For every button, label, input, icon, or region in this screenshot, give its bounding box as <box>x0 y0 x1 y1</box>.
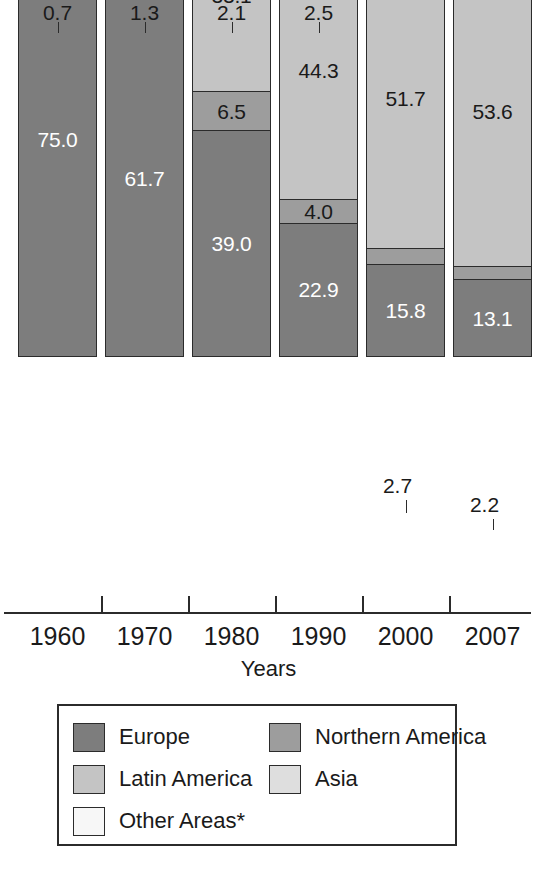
bar-stack-2000[interactable]: 3.426.451.715.8 <box>366 0 445 357</box>
x-tick-label-1970: 1970 <box>105 622 184 651</box>
legend-label-asia: Asia <box>315 768 358 790</box>
segment-value-label: 44.3 <box>298 60 338 81</box>
legend-item-asia[interactable]: Asia <box>269 762 358 796</box>
legend-label-northern-america: Northern America <box>315 726 486 748</box>
segment-value-label: 51.7 <box>385 88 425 109</box>
bar-stack-1980[interactable]: 19.333.16.539.0 <box>192 0 271 357</box>
x-axis-tick <box>449 596 451 613</box>
bar-segment[interactable] <box>454 266 531 280</box>
x-tick-label-1980: 1980 <box>192 622 271 651</box>
segment-callout-label: 2.7 <box>358 475 437 496</box>
segment-callout-leader <box>406 500 408 513</box>
segment-value-label: 13.1 <box>472 308 512 329</box>
x-tick-label-1990: 1990 <box>279 622 358 651</box>
x-axis-tick <box>188 596 190 613</box>
legend-item-europe[interactable]: Europe <box>73 720 190 754</box>
bar-segment[interactable] <box>367 248 444 265</box>
legend-swatch-asia <box>269 765 301 794</box>
segment-value-label: 15.8 <box>385 300 425 321</box>
segment-callout-label: 2.5 <box>279 2 358 23</box>
segment-value-label: 39.0 <box>211 233 251 254</box>
bar-stack-1970[interactable]: 8.919.48.761.7 <box>105 0 184 357</box>
legend-item-northern-america[interactable]: Northern America <box>269 720 486 754</box>
x-axis-tick <box>275 596 277 613</box>
legend-label-latin-america: Latin America <box>119 768 252 790</box>
x-axis-tick <box>362 596 364 613</box>
bar-segment[interactable]: 75.0 <box>19 0 96 356</box>
bar-segment[interactable]: 4.0 <box>280 199 357 223</box>
x-tick-label-2007: 2007 <box>453 622 532 651</box>
bar-group-1970: 8.919.48.761.7 <box>105 0 184 357</box>
legend-label-europe: Europe <box>119 726 190 748</box>
stacked-bar-chart: 5.19.49.875.00.78.919.48.761.71.319.333.… <box>0 0 537 870</box>
segment-callout-label: 2.2 <box>445 494 524 515</box>
x-axis-line <box>4 612 531 614</box>
legend-swatch-latin-america <box>73 765 105 794</box>
bar-segment[interactable]: 53.6 <box>454 0 531 266</box>
segment-value-label: 61.7 <box>124 168 164 189</box>
legend: Europe Northern America Latin America As… <box>57 704 457 846</box>
bar-group-1990: 26.344.34.022.9 <box>279 0 358 357</box>
bar-group-2000: 3.426.451.715.8 <box>366 0 445 357</box>
legend-swatch-other-areas <box>73 807 105 836</box>
segment-callout-leader <box>145 22 147 33</box>
bar-segment[interactable]: 61.7 <box>106 0 183 356</box>
segment-callout-label: 1.3 <box>105 2 184 23</box>
bar-segment[interactable]: 22.9 <box>280 223 357 356</box>
bar-group-1960: 5.19.49.875.0 <box>18 0 97 357</box>
plot-area: 5.19.49.875.00.78.919.48.761.71.319.333.… <box>0 0 537 614</box>
segment-callout-label: 0.7 <box>18 2 97 23</box>
segment-value-label: 4.0 <box>304 201 333 222</box>
legend-grid: Europe Northern America Latin America As… <box>73 718 445 836</box>
bar-stack-2007[interactable]: 4.326.853.613.1 <box>453 0 532 357</box>
x-axis-title: Years <box>0 656 537 682</box>
legend-item-other-areas[interactable]: Other Areas* <box>73 804 245 838</box>
legend-swatch-northern-america <box>269 723 301 752</box>
segment-callout-leader <box>493 519 495 530</box>
segment-value-label: 53.6 <box>472 101 512 122</box>
segment-callout-label: 2.1 <box>192 2 271 23</box>
bar-segment[interactable]: 15.8 <box>367 264 444 356</box>
bar-segment[interactable]: 39.0 <box>193 130 270 356</box>
segment-callout-leader <box>58 22 60 33</box>
segment-callout-leader <box>319 22 321 33</box>
segment-value-label: 6.5 <box>217 101 246 122</box>
bar-group-2007: 4.326.853.613.1 <box>453 0 532 357</box>
segment-callout-leader <box>232 22 234 33</box>
bar-segment[interactable]: 6.5 <box>193 91 270 130</box>
bar-group-1980: 19.333.16.539.0 <box>192 0 271 357</box>
x-tick-label-2000: 2000 <box>366 622 445 651</box>
legend-swatch-europe <box>73 723 105 752</box>
x-tick-label-1960: 1960 <box>18 622 97 651</box>
bar-segment[interactable]: 13.1 <box>454 279 531 356</box>
bar-stack-1990[interactable]: 26.344.34.022.9 <box>279 0 358 357</box>
legend-item-latin-america[interactable]: Latin America <box>73 762 252 796</box>
bar-segment[interactable]: 51.7 <box>367 0 444 248</box>
segment-value-label: 22.9 <box>298 279 338 300</box>
x-axis-tick <box>101 596 103 613</box>
segment-value-label: 75.0 <box>37 129 77 150</box>
legend-label-other-areas: Other Areas* <box>119 810 245 832</box>
bar-stack-1960[interactable]: 5.19.49.875.0 <box>18 0 97 357</box>
